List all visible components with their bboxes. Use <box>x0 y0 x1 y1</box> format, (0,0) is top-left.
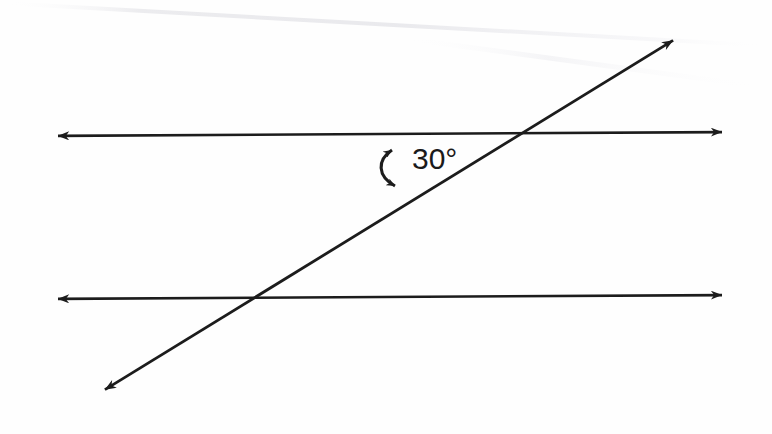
geometry-figure: 30° <box>0 0 772 434</box>
geometry-canvas: 30° <box>0 0 772 434</box>
angle-label: 30° <box>412 142 457 175</box>
